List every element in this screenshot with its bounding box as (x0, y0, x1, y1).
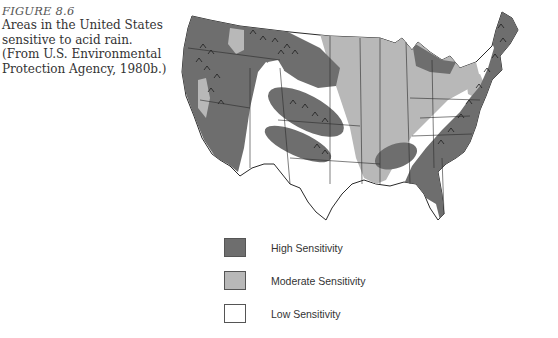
legend-label: Low Sensitivity (271, 308, 340, 320)
figure-caption: FIGURE 8.6 Areas in the United States se… (2, 4, 202, 76)
legend-label: High Sensitivity (271, 242, 343, 254)
legend-item-moderate: Moderate Sensitivity (224, 264, 366, 297)
swatch-low (224, 304, 246, 323)
figure-label: FIGURE 8.6 (2, 4, 202, 18)
legend: High Sensitivity Moderate Sensitivity Lo… (224, 231, 366, 330)
swatch-high (224, 238, 246, 257)
legend-item-high: High Sensitivity (224, 231, 366, 264)
legend-item-low: Low Sensitivity (224, 297, 366, 330)
legend-label: Moderate Sensitivity (271, 275, 366, 287)
caption-text: Areas in the United States sensitive to … (2, 18, 172, 76)
swatch-moderate (224, 271, 246, 290)
us-sensitivity-map (180, 8, 558, 228)
